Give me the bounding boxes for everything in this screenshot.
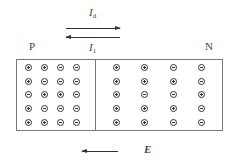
positive-ion-icon [20, 61, 36, 75]
positive-ion-icon [188, 88, 217, 102]
positive-ion-icon [159, 75, 188, 89]
negative-ion-icon [52, 115, 68, 129]
negative-ion-icon [131, 88, 160, 102]
negative-ion-icon [188, 115, 217, 129]
negative-ion-icon [52, 61, 68, 75]
positive-ion-icon [20, 75, 36, 89]
label-e: E [144, 143, 151, 155]
label-p: P [29, 40, 35, 52]
negative-ion-icon [188, 61, 217, 75]
arrow-left-drift [66, 37, 120, 38]
positive-ion-icon [102, 115, 131, 129]
label-n: N [205, 40, 213, 52]
positive-ion-icon [102, 88, 131, 102]
positive-ion-icon [102, 102, 131, 116]
positive-ion-icon [131, 61, 160, 75]
positive-ion-icon [36, 61, 52, 75]
positive-ion-icon [159, 102, 188, 116]
positive-ion-icon [20, 115, 36, 129]
negative-ion-icon [68, 88, 84, 102]
junction-divider [95, 59, 96, 131]
negative-ion-icon [52, 102, 68, 116]
positive-ion-icon [131, 75, 160, 89]
positive-ion-icon [36, 115, 52, 129]
n-side-ions [102, 61, 216, 129]
arrow-right-diffusion [66, 28, 120, 29]
label-i1: I1 [89, 41, 96, 55]
negative-ion-icon [68, 61, 84, 75]
negative-ion-icon [159, 115, 188, 129]
negative-ion-icon [36, 75, 52, 89]
positive-ion-icon [36, 88, 52, 102]
negative-ion-icon [20, 88, 36, 102]
negative-ion-icon [188, 102, 217, 116]
negative-ion-icon [188, 75, 217, 89]
positive-ion-icon [102, 61, 131, 75]
positive-ion-icon [20, 102, 36, 116]
negative-ion-icon [68, 115, 84, 129]
negative-ion-icon [68, 102, 84, 116]
positive-ion-icon [131, 102, 160, 116]
positive-ion-icon [102, 75, 131, 89]
positive-ion-icon [131, 115, 160, 129]
arrow-left-field [82, 151, 118, 152]
negative-ion-icon [36, 102, 52, 116]
label-id: Id [89, 6, 96, 20]
p-side-ions [20, 61, 84, 129]
negative-ion-icon [52, 75, 68, 89]
negative-ion-icon [68, 75, 84, 89]
positive-ion-icon [52, 88, 68, 102]
negative-ion-icon [159, 61, 188, 75]
negative-ion-icon [159, 88, 188, 102]
